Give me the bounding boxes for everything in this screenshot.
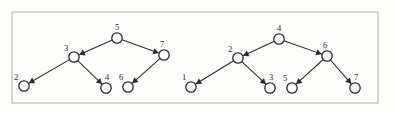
- tree-node-7: [350, 83, 360, 93]
- tree-diagram-svg: 5372464261357: [0, 0, 396, 114]
- node-label-6: 6: [119, 72, 123, 82]
- right-tree-nodes: 4261357: [182, 23, 360, 93]
- node-label-2: 2: [228, 44, 232, 54]
- figure-canvas: 5372464261357: [0, 0, 396, 114]
- node-label-5: 5: [115, 22, 119, 32]
- node-label-1: 1: [182, 72, 186, 82]
- tree-node-2: [19, 81, 29, 91]
- tree-node-6: [322, 51, 332, 61]
- node-label-7: 7: [160, 39, 164, 49]
- tree-node-3: [265, 83, 275, 93]
- node-label-6: 6: [323, 40, 327, 50]
- tree-node-2: [233, 53, 243, 63]
- node-label-3: 3: [64, 43, 68, 53]
- edge-5-to-7: [122, 40, 159, 53]
- left-tree-edges: [29, 40, 160, 84]
- node-label-3: 3: [269, 72, 273, 82]
- node-label-4: 4: [105, 72, 110, 82]
- node-label-7: 7: [354, 72, 358, 82]
- tree-node-4: [274, 34, 284, 44]
- tree-node-1: [186, 82, 196, 92]
- node-label-4: 4: [277, 23, 282, 33]
- edges-layer: [29, 40, 351, 84]
- node-label-5: 5: [283, 73, 287, 83]
- edge-4-to-6: [284, 41, 322, 54]
- edge-7-to-6: [132, 58, 160, 83]
- node-label-2: 2: [14, 72, 18, 82]
- nodes-layer: 5372464261357: [14, 22, 360, 93]
- left-tree-nodes: 537246: [14, 22, 169, 93]
- tree-node-5: [287, 83, 297, 93]
- tree-node-3: [69, 52, 79, 62]
- edge-2-to-1: [196, 61, 234, 84]
- tree-node-5: [112, 33, 122, 43]
- tree-node-6: [123, 82, 133, 92]
- tree-node-4: [101, 83, 111, 93]
- right-tree-edges: [196, 41, 352, 84]
- edge-3-to-2: [29, 60, 70, 84]
- tree-node-7: [159, 50, 169, 60]
